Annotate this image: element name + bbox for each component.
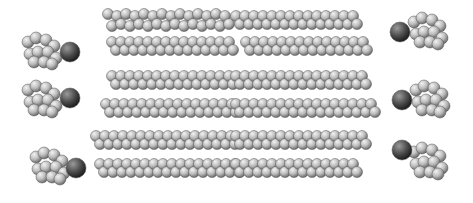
atom [60, 88, 80, 108]
atom [434, 106, 446, 118]
atom [352, 167, 363, 178]
atom [361, 139, 372, 150]
atom [432, 38, 444, 50]
atom [362, 45, 373, 56]
atom [66, 158, 86, 178]
atom [46, 58, 58, 70]
atom [60, 42, 80, 62]
hydrocarbon-chains [91, 9, 381, 178]
molecule-illustration [0, 0, 473, 203]
atom [352, 19, 363, 30]
atom [228, 45, 239, 56]
atom [370, 107, 381, 118]
atom [361, 79, 372, 90]
atom [54, 173, 66, 185]
atom [392, 90, 412, 110]
atom [46, 106, 58, 118]
atom [392, 140, 412, 160]
lipid-model-graphic [0, 0, 473, 203]
atom [432, 168, 444, 180]
atom [390, 22, 410, 42]
